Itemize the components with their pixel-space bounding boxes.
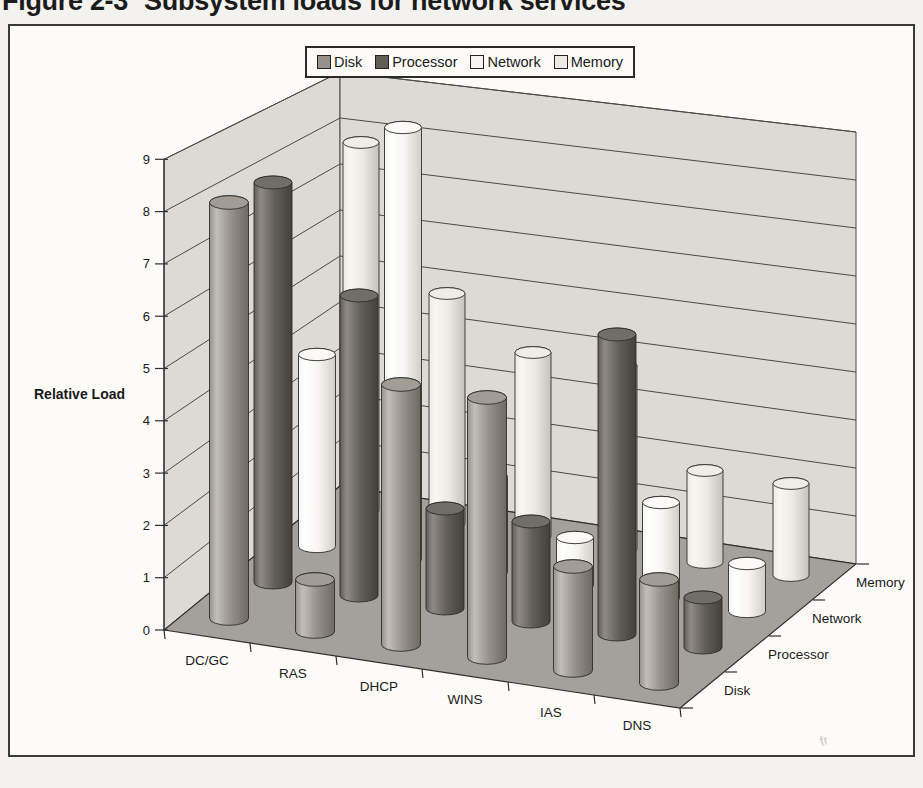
cylinder-memory-DNS	[773, 478, 809, 582]
cylinder-disk-IAS	[554, 560, 593, 678]
legend-swatch-network	[470, 55, 484, 69]
cylinder-top-processor-IAS	[598, 328, 636, 341]
ytick-label-9: 9	[143, 152, 150, 167]
depth-label-disk: Disk	[724, 683, 750, 698]
cylinder-top-network-DCGC	[299, 348, 336, 360]
cylinder-processor-DCGC	[254, 176, 292, 589]
ytick-label-5: 5	[143, 361, 150, 376]
cylinder-top-disk-WINS	[468, 391, 507, 405]
ytick-label-7: 7	[143, 256, 150, 271]
figure-title-text: Subsystem loads for network services	[144, 0, 625, 16]
ytick-label-8: 8	[143, 204, 150, 219]
cylinder-processor-WINS	[512, 515, 550, 628]
cylinder-top-processor-DHCP	[426, 502, 464, 515]
cylinder-top-processor-WINS	[512, 515, 550, 528]
xtick-3	[422, 669, 423, 678]
cylinder-memory-DHCP	[515, 347, 551, 543]
cylinder-top-disk-IAS	[554, 560, 593, 574]
ytick-label-6: 6	[143, 309, 150, 324]
cylinder-top-network-WINS	[557, 531, 594, 543]
cylinder-processor-DHCP	[426, 502, 464, 615]
xtick-2	[336, 656, 337, 665]
scanned-page: Figure 2-3Subsystem loads for network se…	[0, 0, 923, 788]
cylinder-top-network-IAS	[643, 496, 680, 508]
cylinder-top-processor-RAS	[340, 289, 378, 302]
xtick-5	[594, 695, 595, 704]
category-label-IAS: IAS	[540, 705, 562, 720]
cylinder-top-memory-DCGC	[343, 137, 379, 149]
3d-cylinder-chart: 0123456789Relative LoadDC/GCRASDHCPWINSI…	[0, 0, 923, 788]
legend-item-processor: Processor	[375, 54, 457, 70]
cylinder-memory-IAS	[687, 465, 723, 569]
figure-number-label: Figure 2-3	[2, 0, 128, 16]
legend-label-network: Network	[487, 54, 540, 70]
ytick-label-2: 2	[143, 518, 150, 533]
cylinder-network-DCGC	[299, 348, 336, 552]
legend-swatch-disk	[317, 55, 331, 69]
ytick-label-1: 1	[143, 570, 150, 585]
cylinder-disk-DNS	[640, 573, 679, 691]
xtick-4	[508, 682, 509, 691]
cylinder-top-disk-DNS	[640, 573, 679, 587]
category-label-DCGC: DC/GC	[185, 653, 229, 668]
cylinder-top-memory-DNS	[773, 478, 809, 490]
ytick-label-4: 4	[143, 413, 150, 428]
cylinder-top-processor-DCGC	[254, 176, 292, 189]
cylinder-top-disk-RAS	[296, 573, 335, 587]
cylinder-top-processor-DNS	[684, 591, 722, 604]
cylinder-processor-RAS	[340, 289, 378, 602]
depth-label-memory: Memory	[856, 575, 905, 590]
cylinder-top-memory-DHCP	[515, 347, 551, 359]
cylinder-top-network-DNS	[729, 557, 766, 569]
cylinder-top-memory-RAS	[429, 288, 465, 300]
category-label-WINS: WINS	[447, 692, 482, 707]
figure-title: Figure 2-3Subsystem loads for network se…	[2, 0, 625, 17]
cylinder-disk-DHCP	[382, 378, 421, 652]
ytick-label-3: 3	[143, 466, 150, 481]
depth-label-network: Network	[812, 611, 862, 626]
legend-swatch-processor	[375, 55, 389, 69]
legend: DiskProcessorNetworkMemory	[305, 46, 635, 78]
cylinder-top-memory-IAS	[687, 465, 723, 477]
category-label-DHCP: DHCP	[360, 679, 398, 694]
cylinder-top-disk-DHCP	[382, 378, 421, 392]
xtick-6	[680, 708, 681, 717]
cylinder-disk-DCGC	[210, 196, 249, 626]
xtick-1	[250, 643, 251, 652]
y-axis-title: Relative Load	[34, 386, 125, 402]
legend-item-disk: Disk	[317, 54, 362, 70]
legend-label-disk: Disk	[334, 54, 362, 70]
category-label-DNS: DNS	[623, 718, 652, 733]
cylinder-disk-WINS	[468, 391, 507, 665]
legend-label-processor: Processor	[392, 54, 457, 70]
depth-label-processor: Processor	[768, 647, 829, 662]
ytick-label-0: 0	[143, 623, 150, 638]
legend-swatch-memory	[554, 55, 568, 69]
legend-item-memory: Memory	[554, 54, 623, 70]
cylinder-top-disk-DCGC	[210, 196, 249, 210]
legend-label-memory: Memory	[571, 54, 623, 70]
cylinder-processor-IAS	[598, 328, 636, 641]
cylinder-top-network-RAS	[385, 121, 422, 133]
category-label-RAS: RAS	[279, 666, 307, 681]
xtick-0	[164, 630, 165, 639]
legend-item-network: Network	[470, 54, 540, 70]
cylinder-memory-RAS	[429, 288, 465, 530]
